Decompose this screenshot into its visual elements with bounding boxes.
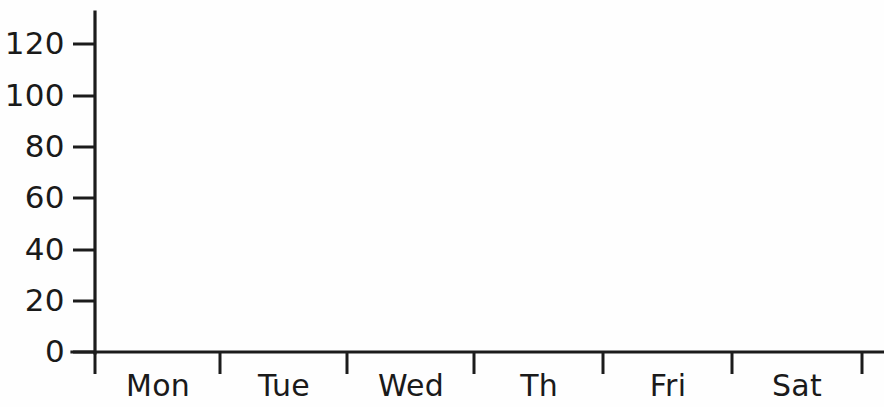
chart-container: 120100806040200 MonTueWedThFriSat bbox=[0, 0, 884, 407]
y-tick-label: 40 bbox=[25, 234, 65, 265]
y-tick-label: 60 bbox=[25, 182, 65, 213]
y-tick-label: 120 bbox=[5, 28, 65, 59]
y-tick-label: 80 bbox=[25, 131, 65, 162]
x-tick-label: Wed bbox=[341, 371, 481, 401]
x-tick-label: Sat bbox=[727, 371, 867, 401]
y-tick-label: 20 bbox=[25, 285, 65, 316]
x-tick-label: Tue bbox=[214, 371, 354, 401]
x-tick-label: Fri bbox=[598, 371, 738, 401]
plot-area bbox=[95, 12, 884, 352]
x-tick-label: Th bbox=[469, 371, 609, 401]
y-tick-label: 100 bbox=[5, 80, 65, 111]
y-tick-marks-group bbox=[73, 44, 95, 352]
y-tick-label: 0 bbox=[45, 336, 65, 367]
x-tick-label: Mon bbox=[88, 371, 228, 401]
